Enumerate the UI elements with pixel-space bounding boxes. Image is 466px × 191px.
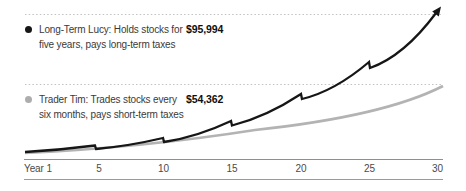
- lucy-final-value: $95,994: [186, 22, 223, 37]
- comparison-chart: Long-Term Lucy: Holds stocks for five ye…: [0, 0, 466, 191]
- x-tick-label: 30: [432, 163, 443, 174]
- lucy-bullet-icon: [25, 26, 32, 33]
- legend-label-line: Trader Tim: Trades stocks every: [39, 94, 177, 105]
- x-tick-label: 5: [96, 163, 101, 174]
- legend-label-line: six months, pays short-term taxes: [39, 109, 184, 120]
- legend-item-tim: Trader Tim: Trades stocks every six mont…: [25, 92, 191, 122]
- x-tick-label: Year 1: [24, 163, 52, 174]
- x-tick-label: 10: [158, 163, 169, 174]
- x-tick-label: 25: [364, 163, 375, 174]
- tim-final-value: $54,362: [186, 92, 223, 107]
- tim-bullet-icon: [25, 96, 32, 103]
- legend-item-lucy: Long-Term Lucy: Holds stocks for five ye…: [25, 22, 191, 52]
- x-tick-label: 20: [296, 163, 307, 174]
- x-tick-label: 15: [227, 163, 238, 174]
- legend-label-line: Long-Term Lucy: Holds stocks for: [39, 24, 183, 35]
- legend-label-line: five years, pays long-term taxes: [39, 39, 175, 50]
- legend-label-lucy: Long-Term Lucy: Holds stocks for five ye…: [39, 22, 191, 52]
- legend-label-tim: Trader Tim: Trades stocks every six mont…: [39, 92, 191, 122]
